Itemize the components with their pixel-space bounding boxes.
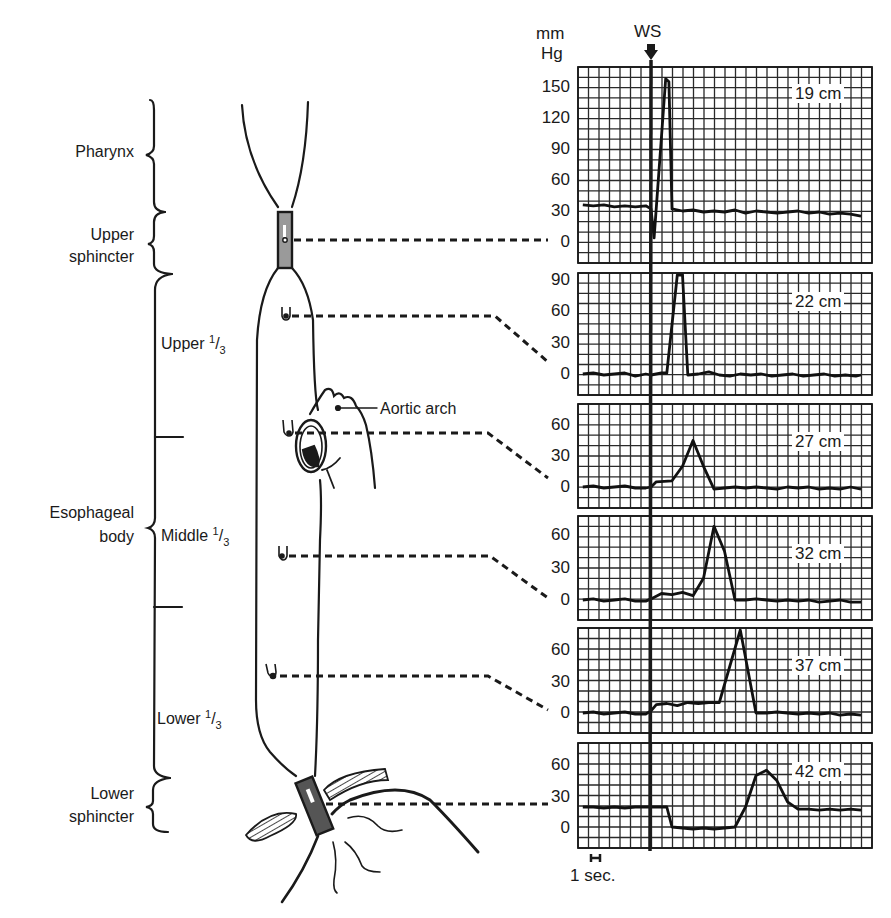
upper-sphincter-probe <box>283 238 287 242</box>
manometry-panel <box>578 743 872 848</box>
panel-position-label: 22 cm <box>792 292 844 311</box>
ws-line <box>650 60 651 851</box>
label-lower-third: Lower 1/3 <box>157 705 222 735</box>
leader-32cm <box>289 556 548 598</box>
esophagus-wall-right-lower <box>315 480 321 776</box>
manometry-panel <box>578 404 872 508</box>
y-tick-label: 120 <box>536 109 570 127</box>
leader-27cm <box>295 433 548 478</box>
y-tick-label: 0 <box>536 478 570 496</box>
y-tick-label: 60 <box>536 641 570 659</box>
y-tick-label: 90 <box>536 140 570 158</box>
y-tick-label: 150 <box>536 78 570 96</box>
stomach-fold-3 <box>333 842 337 893</box>
y-tick-label: 0 <box>536 591 570 609</box>
lower-sphincter-brace <box>146 778 170 832</box>
ws-arrow-icon <box>644 44 658 60</box>
ws-marker <box>644 44 658 851</box>
y-tick-label: 60 <box>536 756 570 774</box>
esophagus-wall-right <box>292 268 318 410</box>
ws-label: WS <box>634 22 661 41</box>
label-lower-sphincter-2: sphincter <box>30 807 134 826</box>
y-unit-hg: Hg <box>541 44 563 63</box>
manometry-panels <box>578 67 872 848</box>
panel-position-label: 27 cm <box>792 432 844 451</box>
y-tick-label: 30 <box>536 673 570 691</box>
aortic-arch-outline <box>310 389 375 488</box>
label-esophageal-body-1: Esophageal <box>10 503 134 522</box>
panel-position-label: 42 cm <box>792 762 844 781</box>
time-scale-label: 1 sec. <box>570 866 615 885</box>
y-tick-label: 0 <box>536 819 570 837</box>
y-tick-label: 30 <box>536 788 570 806</box>
y-tick-label: 60 <box>536 526 570 544</box>
pharynx-wall-left <box>242 105 278 207</box>
stomach-wall-left <box>282 836 318 902</box>
leader-37cm <box>280 676 548 710</box>
y-tick-label: 0 <box>536 365 570 383</box>
stomach-fold-1 <box>348 816 402 831</box>
pharynx-brace <box>146 100 165 212</box>
panel-position-label: 37 cm <box>792 656 844 675</box>
label-aortic-arch: Aortic arch <box>380 399 456 418</box>
y-tick-label: 0 <box>536 233 570 251</box>
label-lower-sphincter-1: Lower <box>30 784 134 803</box>
esophagus-drawing <box>242 102 478 902</box>
probe-icon-37cm <box>266 664 276 679</box>
y-tick-label: 30 <box>536 334 570 352</box>
manometry-panel <box>578 628 872 733</box>
label-middle-third: Middle 1/3 <box>161 522 229 552</box>
figure-canvas <box>0 0 891 918</box>
y-tick-label: 0 <box>536 704 570 722</box>
y-tick-label: 60 <box>536 302 570 320</box>
manometry-figure: Pharynx Upper sphincter Esophageal body … <box>0 0 891 918</box>
y-tick-label: 30 <box>536 447 570 465</box>
label-esophageal-body-2: body <box>10 527 134 546</box>
grid-lines <box>578 404 872 508</box>
y-tick-label: 60 <box>536 171 570 189</box>
manometry-panel <box>578 516 872 620</box>
grid-lines <box>578 516 872 620</box>
diaphragm-right <box>324 769 388 800</box>
upper-sphincter-brace <box>148 212 172 274</box>
esophagus-wall-left <box>256 268 296 776</box>
y-tick-label: 60 <box>536 416 570 434</box>
time-scale-bar <box>591 854 600 862</box>
probe-icon-32cm <box>279 546 287 560</box>
probe-icon-27cm <box>283 420 293 436</box>
y-tick-label: 30 <box>536 559 570 577</box>
pharynx-wall-right <box>292 102 308 207</box>
probe-icon-22cm <box>282 307 290 320</box>
grid-lines <box>578 743 872 848</box>
stomach-fold-2 <box>345 842 380 872</box>
panel-position-label: 32 cm <box>792 544 844 563</box>
leader-22cm <box>292 316 548 362</box>
y-tick-label: 90 <box>536 271 570 289</box>
label-upper-sphincter-2: sphincter <box>30 247 134 266</box>
y-tick-label: 30 <box>536 202 570 220</box>
sensor-probes <box>266 307 293 679</box>
y-unit-mm: mm <box>536 24 564 43</box>
label-upper-sphincter-1: Upper <box>40 225 134 244</box>
label-pharynx: Pharynx <box>40 142 134 161</box>
stomach-wall-right <box>332 790 478 852</box>
label-upper-third: Upper 1/3 <box>161 330 226 360</box>
aortic-arch-drawing <box>296 389 377 488</box>
panel-position-label: 19 cm <box>792 84 844 103</box>
diaphragm-left <box>246 813 296 841</box>
